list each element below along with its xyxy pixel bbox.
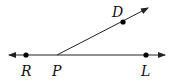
point-l-dot [143,52,148,57]
diagram-svg: R P L D [0,0,172,82]
ray-pd [57,8,148,55]
label-r: R [20,63,32,79]
label-p: P [51,63,62,79]
label-l: L [140,63,150,79]
point-r-dot [23,52,28,57]
label-d: D [111,4,123,20]
geometry-diagram: R P L D [0,0,172,82]
point-d-dot [120,19,125,24]
